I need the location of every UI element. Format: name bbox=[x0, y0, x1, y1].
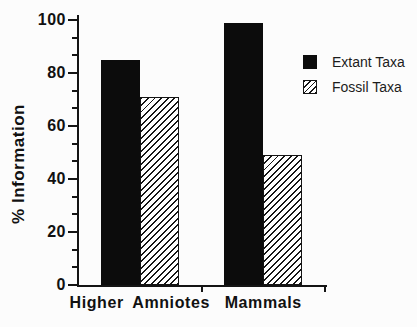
y-minor-tick bbox=[72, 213, 78, 215]
y-major-tick bbox=[68, 231, 78, 233]
y-minor-tick bbox=[72, 160, 78, 162]
y-minor-tick bbox=[72, 54, 78, 56]
x-boundary-tick bbox=[324, 285, 326, 292]
y-tick-label: 80 bbox=[20, 65, 66, 81]
bar-diagonal-hatch bbox=[140, 97, 179, 285]
legend-item: Extant Taxa bbox=[303, 55, 405, 69]
y-major-tick bbox=[68, 125, 78, 127]
x-category-label: Mammals bbox=[168, 295, 358, 311]
legend: Extant TaxaFossil Taxa bbox=[303, 55, 405, 94]
y-major-tick bbox=[68, 284, 78, 286]
y-minor-tick bbox=[72, 266, 78, 268]
y-tick-label: 0 bbox=[20, 277, 66, 293]
x-boundary-tick bbox=[201, 285, 203, 292]
y-minor-tick bbox=[72, 107, 78, 109]
y-minor-tick bbox=[72, 249, 78, 251]
legend-item: Fossil Taxa bbox=[303, 80, 405, 94]
legend-swatch-solid-black bbox=[303, 55, 317, 69]
bar-solid-black bbox=[101, 60, 140, 285]
y-minor-tick bbox=[72, 143, 78, 145]
legend-label: Fossil Taxa bbox=[332, 80, 402, 94]
y-major-tick bbox=[68, 178, 78, 180]
y-tick-label: 40 bbox=[20, 171, 66, 187]
y-minor-tick bbox=[72, 37, 78, 39]
bar-diagonal-hatch bbox=[263, 155, 302, 285]
y-major-tick bbox=[68, 19, 78, 21]
legend-label: Extant Taxa bbox=[332, 55, 405, 69]
y-minor-tick bbox=[72, 90, 78, 92]
bar-chart-figure: % Information 020406080100 Higher Amniot… bbox=[0, 0, 417, 327]
legend-swatch-diagonal-hatch bbox=[303, 80, 317, 94]
bar-solid-black bbox=[224, 23, 263, 285]
y-major-tick bbox=[68, 72, 78, 74]
y-minor-tick bbox=[72, 196, 78, 198]
y-tick-label: 60 bbox=[20, 118, 66, 134]
y-tick-label: 20 bbox=[20, 224, 66, 240]
y-tick-label: 100 bbox=[20, 12, 66, 28]
